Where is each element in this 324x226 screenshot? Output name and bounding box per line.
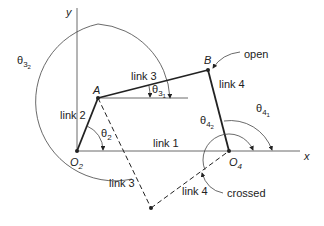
label-link4-open: link 4 (219, 78, 245, 90)
x-axis-label: x (303, 150, 310, 162)
label-link3-crossed: link 3 (109, 177, 135, 189)
joint-O4 (227, 149, 231, 153)
label-B: B (204, 54, 211, 66)
theta32-arc (36, 24, 170, 181)
label-link1: link 1 (153, 137, 179, 149)
theta31-arc (149, 86, 150, 97)
label-theta42: θ42 (200, 114, 215, 130)
label-theta41: θ41 (256, 102, 271, 118)
label-O4: O4 (229, 156, 243, 171)
label-link3-open: link 3 (131, 70, 157, 82)
fourbar-diagram: y x A B O2 O4 link 1 link 2 link 3 link … (0, 0, 324, 226)
label-O2: O2 (70, 156, 84, 171)
label-link4-crossed: link 4 (182, 185, 208, 197)
label-crossed: crossed (227, 187, 266, 199)
label-open: open (244, 48, 268, 60)
open-callout-curve (213, 52, 240, 68)
y-axis-label: y (65, 6, 73, 18)
label-link2: link 2 (60, 109, 86, 121)
label-theta2: θ2 (101, 127, 112, 142)
link4-crossed (151, 151, 229, 208)
link2 (77, 98, 98, 151)
label-theta31: θ31 (152, 83, 167, 99)
joint-B (206, 68, 210, 72)
theta41-arc (224, 121, 272, 150)
joint-O2 (75, 149, 79, 153)
link3-crossed (98, 98, 151, 208)
joint-A (96, 96, 100, 100)
label-A: A (92, 84, 100, 96)
joint-crossed (149, 206, 153, 210)
label-theta32: θ32 (17, 54, 32, 70)
